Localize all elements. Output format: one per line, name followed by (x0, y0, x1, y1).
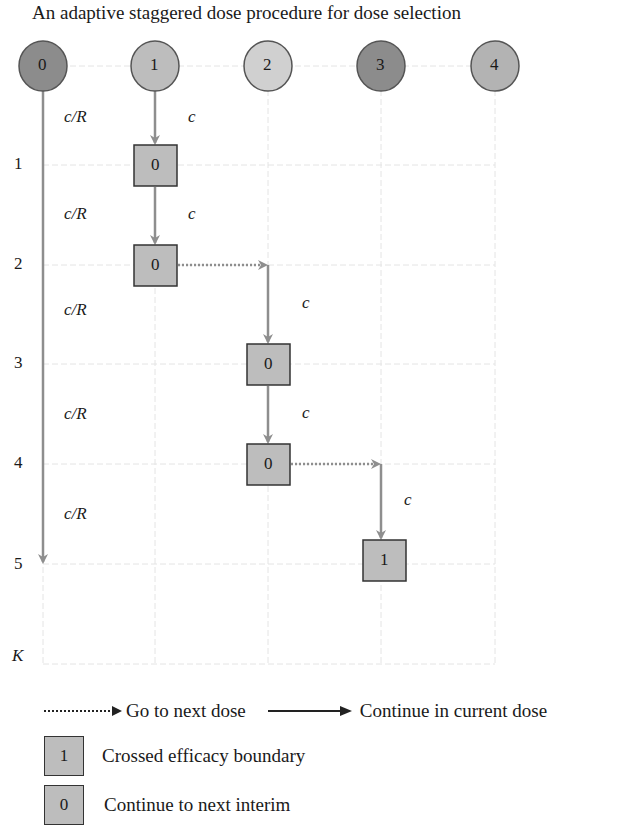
interim-label: 3 (14, 353, 23, 373)
allocation-label: c/R (64, 300, 87, 320)
legend-dotted-label: Go to next dose (126, 700, 246, 722)
allocation-label: c/R (64, 204, 87, 224)
dose-label: 2 (263, 55, 272, 75)
solid-arrow-icon (268, 704, 352, 718)
legend-solid-label: Continue in current dose (360, 700, 547, 722)
dotted-arrow-icon (44, 704, 122, 718)
interim-label: K (12, 646, 23, 666)
dose-label: 3 (376, 55, 385, 75)
allocation-label: c/R (64, 404, 87, 424)
legend-arrows: Go to next dose Continue in current dose (44, 700, 547, 722)
decision-value: 1 (380, 550, 389, 570)
legend-box-1-label: Crossed efficacy boundary (102, 745, 305, 767)
interim-label: 4 (14, 453, 23, 473)
dose-label: 0 (38, 55, 47, 75)
interim-label: 1 (14, 154, 23, 174)
legend-box-icon: 0 (44, 785, 84, 825)
allocation-label: c (188, 204, 196, 224)
decision-value: 0 (151, 155, 160, 175)
legend-box-icon: 1 (44, 736, 84, 776)
legend-box-0: 0 Continue to next interim (44, 785, 290, 825)
allocation-label: c (302, 403, 310, 423)
dose-label: 4 (490, 55, 499, 75)
decision-value: 0 (264, 454, 273, 474)
dose-label: 1 (150, 55, 159, 75)
allocation-label: c (302, 293, 310, 313)
allocation-label: c (188, 107, 196, 127)
allocation-label: c/R (64, 504, 87, 524)
legend-box-1: 1 Crossed efficacy boundary (44, 736, 305, 776)
legend-box-0-label: Continue to next interim (104, 794, 290, 816)
decision-value: 0 (151, 255, 160, 275)
decision-value: 0 (264, 354, 273, 374)
interim-label: 2 (14, 254, 23, 274)
allocation-label: c/R (64, 107, 87, 127)
interim-label: 5 (14, 554, 23, 574)
dose-procedure-diagram (0, 0, 639, 700)
allocation-label: c (404, 490, 412, 510)
